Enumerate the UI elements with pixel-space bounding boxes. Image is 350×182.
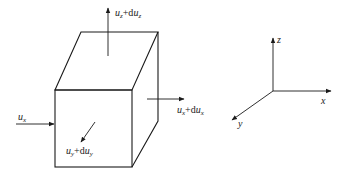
coordinate-axes: [232, 38, 331, 120]
label-subscript: z: [138, 12, 141, 20]
cube-top-face: [55, 32, 158, 90]
axis-y: [232, 91, 273, 120]
axis-label-z: z: [277, 35, 281, 45]
label-uz-du-z: uz+duz: [115, 8, 141, 20]
label-subscript: x: [23, 116, 26, 124]
label-uy-du-y: uy+duy: [66, 146, 93, 158]
axis-label-y: y: [238, 119, 242, 129]
label-subscript: y: [90, 150, 93, 158]
axis-x-text: x: [321, 95, 325, 106]
label-plus-d: +d: [123, 7, 134, 18]
axis-y-text: y: [238, 118, 242, 129]
label-plus-d: +d: [74, 145, 85, 156]
cube-right-face: [132, 32, 158, 167]
label-ux-du-x: ux+dux: [177, 105, 204, 117]
label-plus-d: +d: [185, 104, 196, 115]
axis-z-text: z: [277, 34, 281, 45]
axis-label-x: x: [321, 96, 325, 106]
label-subscript: x: [201, 109, 204, 117]
fluid-element-diagram: uz+duz ux+dux ux uy+duy z x y: [0, 0, 350, 182]
label-ux: ux: [18, 112, 26, 124]
arrow-uy-out: [81, 122, 95, 142]
diagram-graphics: [0, 0, 350, 182]
